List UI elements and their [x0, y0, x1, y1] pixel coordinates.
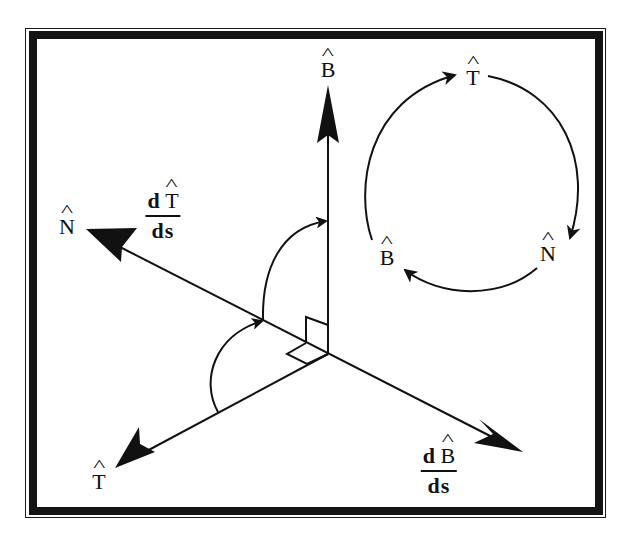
normal-label: N [59, 216, 75, 238]
arc-n-to-b [263, 221, 326, 320]
tangent-label: T [92, 471, 105, 493]
cycle-node-b: B [380, 247, 395, 269]
dt-ds-vector: T [165, 190, 178, 212]
tangent-arrowhead-icon [115, 427, 155, 468]
dt-ds-numerator: d T [145, 190, 180, 215]
cycle-arc-n-to-b [405, 268, 537, 291]
normal-axis [86, 228, 523, 452]
normal-label-text: N [59, 216, 75, 238]
db-ds-d: d [423, 443, 435, 468]
cycle-node-n-text: N [540, 243, 556, 265]
tangent-label-text: T [92, 471, 105, 493]
dbds-arrowhead-icon [474, 419, 523, 452]
dt-ds-d: d [147, 188, 159, 213]
db-ds-fraction: d B ds [421, 445, 457, 497]
dt-ds-fraction: d T ds [145, 190, 180, 242]
db-ds-numerator: d B [421, 445, 457, 470]
arc-t-to-n [211, 321, 262, 412]
binormal-label: B [321, 59, 336, 81]
cycle-node-n: N [540, 243, 556, 265]
cycle-node-t: T [466, 67, 479, 89]
tangent-axis [115, 354, 328, 468]
binormal-axis [317, 85, 339, 354]
binormal-arrowhead-icon [317, 85, 339, 143]
db-ds-denominator: ds [428, 472, 451, 497]
cycle-node-t-text: T [466, 67, 479, 89]
cycle-node-b-text: B [380, 247, 395, 269]
db-ds-vector: B [441, 445, 456, 467]
normal-arrowhead-icon [86, 228, 137, 262]
cycle-arc-b-to-t [365, 75, 455, 240]
binormal-label-text: B [321, 59, 336, 81]
dt-ds-denominator: ds [152, 217, 175, 242]
right-angle-markers [287, 317, 328, 364]
cycle-arc-t-to-n [488, 76, 578, 238]
